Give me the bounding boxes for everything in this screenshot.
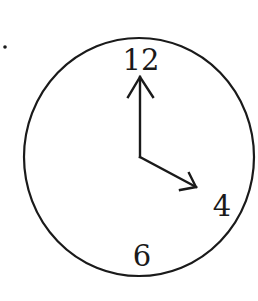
- minute-hand: [128, 77, 153, 157]
- numeral-6: 6: [133, 239, 151, 273]
- clock-diagram: 12 4 6: [0, 0, 258, 301]
- bullet-dot: [3, 45, 7, 49]
- numeral-4: 4: [213, 189, 231, 223]
- hour-hand: [140, 157, 196, 190]
- numeral-12: 12: [123, 43, 160, 77]
